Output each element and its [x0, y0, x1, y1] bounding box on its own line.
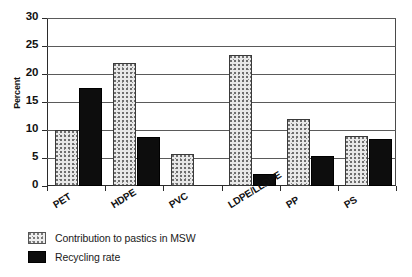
bar-contribution-hdpe — [113, 63, 136, 186]
x-axis-label-ps: PS — [342, 194, 359, 210]
bar-recycling-pet — [79, 88, 102, 186]
x-axis-label-hdpe: HDPE — [109, 187, 138, 211]
bar-contribution-pp — [287, 119, 310, 186]
legend-item: Recycling rate — [28, 247, 196, 266]
x-tick-mark — [163, 186, 164, 191]
bar-recycling-hdpe — [137, 137, 160, 186]
bar-contribution-pet — [55, 130, 78, 186]
x-tick-mark — [222, 186, 223, 191]
x-tick-mark — [338, 186, 339, 191]
bar-contribution-ldpe-lldpe — [229, 55, 252, 186]
bar-chart-figure: Percent 051015202530 PETHDPEPVCLDPE/LLDP… — [0, 0, 412, 277]
bar-contribution-pvc — [171, 154, 194, 186]
bars-layer — [47, 18, 396, 186]
x-axis-label-pet: PET — [51, 191, 73, 210]
y-tick-label: 10 — [4, 122, 38, 134]
legend-label: Contribution to pastics in MSW — [55, 232, 196, 244]
legend-item: Contribution to pastics in MSW — [28, 228, 196, 247]
legend-swatch-icon — [28, 251, 46, 263]
x-axis-label-pvc: PVC — [167, 190, 190, 210]
x-tick-mark — [47, 186, 48, 191]
y-tick-label: 0 — [4, 178, 38, 190]
y-tick-label: 30 — [4, 10, 38, 22]
chart-legend: Contribution to pastics in MSWRecycling … — [28, 228, 196, 266]
y-tick-label: 25 — [4, 38, 38, 50]
bar-contribution-ps — [345, 136, 368, 186]
y-tick-label: 20 — [4, 66, 38, 78]
x-tick-mark — [105, 186, 106, 191]
y-tick-label: 5 — [4, 150, 38, 162]
x-tick-mark — [396, 186, 397, 191]
bar-recycling-pp — [311, 156, 334, 186]
bar-recycling-ps — [369, 139, 392, 186]
x-axis-label-pp: PP — [284, 194, 301, 210]
legend-label: Recycling rate — [55, 251, 120, 263]
legend-swatch-icon — [28, 232, 46, 244]
x-tick-mark — [280, 186, 281, 191]
y-tick-label: 15 — [4, 94, 38, 106]
